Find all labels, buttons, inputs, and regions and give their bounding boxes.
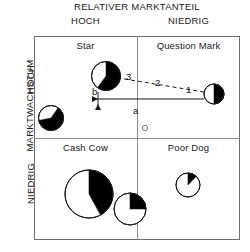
horizontal-divider <box>34 138 240 139</box>
top-axis-title: RELATIVER MARKTANTEIL <box>34 1 240 12</box>
component-letter-b: b <box>92 86 97 97</box>
bcg-matrix-diagram: RELATIVER MARKTANTEIL HOCH NIEDRIG MARKT… <box>0 0 250 252</box>
column-header-niedrig: NIEDRIG <box>137 15 240 26</box>
quadrant-label-question-mark: Question Mark <box>137 40 240 51</box>
column-header-hoch: HOCH <box>34 15 137 26</box>
path-segment-label-1: 1 <box>186 84 191 95</box>
quadrant-label-cash-cow: Cash Cow <box>34 142 137 153</box>
quadrant-label-star: Star <box>34 40 137 51</box>
quadrant-label-poor-dog: Poor Dog <box>137 142 240 153</box>
path-segment-label-2: 2 <box>155 77 160 88</box>
path-segment-label-3: 3 <box>126 71 131 82</box>
component-letter-a: a <box>133 105 138 116</box>
